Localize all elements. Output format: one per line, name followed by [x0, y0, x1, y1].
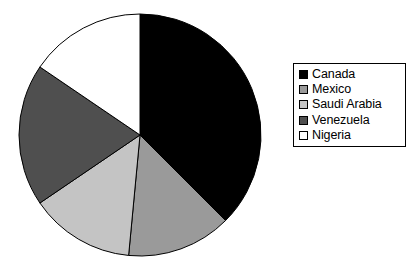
- chart-legend: Canada Mexico Saudi Arabia Venezuela Nig…: [293, 63, 406, 147]
- legend-item-venezuela[interactable]: Venezuela: [299, 113, 405, 128]
- legend-item-nigeria[interactable]: Nigeria: [299, 128, 405, 143]
- legend-item-canada[interactable]: Canada: [299, 67, 405, 82]
- pie-slice-group: [19, 14, 261, 256]
- legend-item-saudi-arabia[interactable]: Saudi Arabia: [299, 97, 405, 112]
- legend-item-mexico[interactable]: Mexico: [299, 82, 405, 97]
- legend-swatch-mexico: [299, 85, 308, 94]
- legend-swatch-canada: [299, 70, 308, 79]
- legend-swatch-saudi-arabia: [299, 100, 308, 109]
- legend-swatch-venezuela: [299, 116, 308, 125]
- pie-chart-figure: Canada Mexico Saudi Arabia Venezuela Nig…: [0, 0, 415, 263]
- legend-label-saudi-arabia: Saudi Arabia: [312, 98, 382, 111]
- legend-label-venezuela: Venezuela: [312, 114, 370, 127]
- legend-swatch-nigeria: [299, 131, 308, 140]
- pie-svg: [0, 0, 285, 263]
- legend-label-nigeria: Nigeria: [312, 129, 351, 142]
- pie-plot-area: [0, 0, 285, 263]
- legend-label-mexico: Mexico: [312, 83, 351, 96]
- legend-label-canada: Canada: [312, 68, 355, 81]
